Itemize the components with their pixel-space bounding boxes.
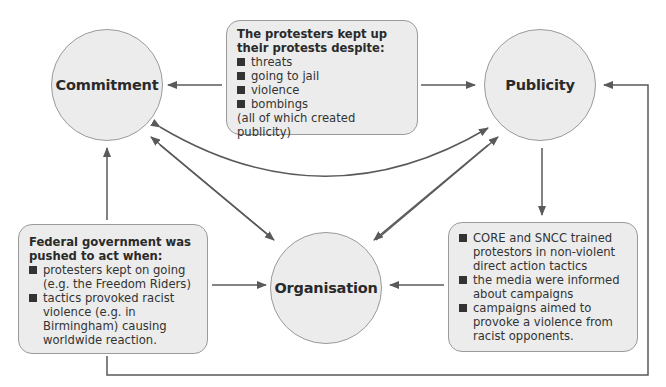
box-federal-government: Federal government was pushed to act whe… <box>18 224 208 354</box>
node-commitment-label: Commitment <box>56 77 159 93</box>
list-item: going to jail <box>237 69 409 83</box>
list-item: threats <box>237 55 409 69</box>
list-item: tactics provoked racist violence (e.g. i… <box>29 291 199 347</box>
node-publicity: Publicity <box>484 29 596 141</box>
node-commitment: Commitment <box>51 29 163 141</box>
list-item: bombings <box>237 97 409 111</box>
box-right-list: CORE and SNCC trained protestors in non-… <box>459 231 629 343</box>
box-left-title: Federal government was pushed to act whe… <box>29 235 199 263</box>
box-core-sncc: CORE and SNCC trained protestors in non-… <box>448 222 638 352</box>
node-organisation: Organisation <box>270 232 382 344</box>
box-top-list: threats going to jail violence bombings <box>237 55 409 111</box>
box-left-list: protesters kept on going (e.g. the Freed… <box>29 263 199 347</box>
list-item: the media were informed about campaigns <box>459 273 629 301</box>
list-item: campaigns aimed to provoke a violence fr… <box>459 301 629 343</box>
list-item: CORE and SNCC trained protestors in non-… <box>459 231 629 273</box>
list-item: violence <box>237 83 409 97</box>
node-publicity-label: Publicity <box>505 77 574 93</box>
box-top-title: The protesters kept up their protests de… <box>237 27 409 55</box>
list-item: protesters kept on going (e.g. the Freed… <box>29 263 199 291</box>
box-protests-despite: The protesters kept up their protests de… <box>226 20 418 135</box>
node-organisation-label: Organisation <box>274 280 377 296</box>
box-top-note: (all of which created publicity) <box>237 111 409 139</box>
